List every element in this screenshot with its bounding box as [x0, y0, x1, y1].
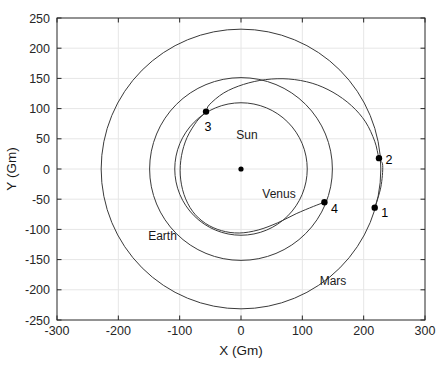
x-tick-label: -200	[106, 324, 131, 338]
y-tick-label: 0	[43, 163, 50, 177]
x-tick-label: 0	[238, 324, 245, 338]
orbit-label-earth: Earth	[148, 229, 177, 243]
waypoint-marker-3	[203, 108, 209, 114]
y-tick-label: -250	[25, 314, 50, 328]
x-axis-title: X (Gm)	[219, 343, 263, 358]
waypoint-label-2: 2	[386, 153, 393, 167]
waypoint-label-4: 4	[331, 202, 338, 216]
y-tick-label: 50	[36, 132, 50, 146]
sun-marker	[238, 166, 243, 171]
orbit-plot: VenusEarthMarsSun1234-300-200-1000100200…	[0, 0, 447, 374]
y-tick-label: -50	[32, 193, 50, 207]
x-tick-label: -100	[167, 324, 192, 338]
y-tick-label: -150	[25, 253, 50, 267]
y-axis-title: Y (Gm)	[4, 147, 19, 190]
y-tick-label: 150	[29, 72, 50, 86]
x-tick-label: 300	[415, 324, 436, 338]
waypoint-marker-2	[376, 155, 382, 161]
orbit-label-venus: Venus	[262, 187, 295, 201]
y-tick-label: 250	[29, 12, 50, 26]
waypoint-marker-1	[372, 204, 378, 210]
y-tick-label: -100	[25, 223, 50, 237]
sun-label: Sun	[236, 128, 257, 142]
x-tick-label: 100	[292, 324, 313, 338]
figure-container: VenusEarthMarsSun1234-300-200-1000100200…	[0, 0, 447, 374]
orbit-label-mars: Mars	[320, 274, 347, 288]
y-tick-label: -200	[25, 283, 50, 297]
waypoint-label-3: 3	[205, 120, 212, 134]
waypoint-label-1: 1	[381, 206, 388, 220]
waypoint-marker-4	[321, 199, 327, 205]
y-tick-label: 200	[29, 42, 50, 56]
y-tick-label: 100	[29, 102, 50, 116]
x-tick-label: 200	[353, 324, 374, 338]
